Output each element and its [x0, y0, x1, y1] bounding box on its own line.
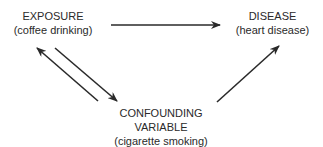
disease-node: DISEASE (heart disease): [222, 9, 323, 37]
exposure-title: EXPOSURE: [0, 9, 106, 23]
confounder-subtitle: (cigarette smoking): [100, 134, 222, 147]
exposure-subtitle: (coffee drinking): [0, 23, 106, 37]
exposure-node: EXPOSURE (coffee drinking): [0, 9, 106, 37]
confounder-node: CONFOUNDING VARIABLE (cigarette smoking): [100, 106, 222, 147]
disease-subtitle: (heart disease): [222, 23, 323, 37]
disease-title: DISEASE: [222, 9, 323, 23]
arrow-exposure-to-confounder: [55, 48, 117, 101]
arrow-confounder-to-exposure: [37, 48, 98, 101]
confounder-title-line1: CONFOUNDING: [100, 106, 222, 120]
arrow-confounder-to-disease: [217, 46, 279, 102]
confounder-title-line2: VARIABLE: [100, 120, 222, 134]
